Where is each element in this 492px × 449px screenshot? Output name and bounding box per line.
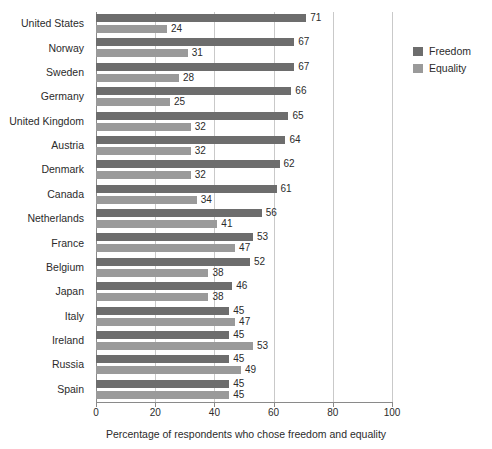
bar-value-label: 32 xyxy=(195,146,206,156)
bar-equality: 41 xyxy=(96,220,217,228)
category-label-spain: Spain xyxy=(0,384,84,395)
bar-freedom: 66 xyxy=(96,87,291,95)
chart-legend: FreedomEquality xyxy=(413,44,471,78)
bar-value-label: 53 xyxy=(257,341,268,351)
bar-equality: 38 xyxy=(96,293,208,301)
bar-value-label: 67 xyxy=(298,62,309,72)
category-axis-labels: United StatesNorwaySwedenGermanyUnited K… xyxy=(0,12,84,402)
bar-group: 6232 xyxy=(96,158,392,182)
bar-value-label: 25 xyxy=(174,97,185,107)
bar-group: 6532 xyxy=(96,110,392,134)
bar-value-label: 47 xyxy=(239,243,250,253)
bar-value-label: 46 xyxy=(236,281,247,291)
bar-equality: 24 xyxy=(96,25,167,33)
bar-value-label: 45 xyxy=(233,306,244,316)
category-label-germany: Germany xyxy=(0,91,84,102)
bar-freedom: 71 xyxy=(96,14,306,22)
bar-value-label: 32 xyxy=(195,122,206,132)
bar-value-label: 34 xyxy=(201,195,212,205)
bar-freedom: 67 xyxy=(96,63,294,71)
bar-value-label: 38 xyxy=(212,292,223,302)
bar-group: 6432 xyxy=(96,134,392,158)
category-label-united-states: United States xyxy=(0,18,84,29)
legend-swatch-icon xyxy=(413,47,423,56)
bar-value-label: 65 xyxy=(292,111,303,121)
bar-value-label: 61 xyxy=(281,184,292,194)
bar-freedom: 45 xyxy=(96,331,229,339)
bar-value-label: 53 xyxy=(257,232,268,242)
legend-item-equality[interactable]: Equality xyxy=(413,61,471,75)
bar-freedom: 56 xyxy=(96,209,262,217)
legend-item-freedom[interactable]: Freedom xyxy=(413,44,471,58)
legend-swatch-icon xyxy=(413,64,423,73)
bar-group: 4638 xyxy=(96,280,392,304)
x-axis: 020406080100 xyxy=(96,402,392,422)
bar-value-label: 64 xyxy=(289,135,300,145)
bar-equality: 45 xyxy=(96,391,229,399)
x-tick-label-80: 80 xyxy=(327,407,338,419)
bar-equality: 28 xyxy=(96,74,179,82)
bar-freedom: 45 xyxy=(96,355,229,363)
bar-equality: 38 xyxy=(96,269,208,277)
bar-equality: 47 xyxy=(96,318,235,326)
category-label-italy: Italy xyxy=(0,311,84,322)
bar-value-label: 49 xyxy=(245,365,256,375)
bar-equality: 32 xyxy=(96,123,191,131)
bar-value-label: 47 xyxy=(239,317,250,327)
x-axis-title: Percentage of respondents who chose free… xyxy=(0,428,492,440)
bar-freedom: 61 xyxy=(96,185,277,193)
bar-equality: 25 xyxy=(96,98,170,106)
bar-value-label: 52 xyxy=(254,257,265,267)
bar-group: 6728 xyxy=(96,61,392,85)
bar-value-label: 41 xyxy=(221,219,232,229)
x-tick-label-0: 0 xyxy=(93,407,99,419)
bar-equality: 32 xyxy=(96,171,191,179)
bar-equality: 47 xyxy=(96,244,235,252)
bar-chart: United StatesNorwaySwedenGermanyUnited K… xyxy=(0,0,492,449)
bar-equality: 31 xyxy=(96,49,188,57)
bar-freedom: 67 xyxy=(96,38,294,46)
bar-freedom: 45 xyxy=(96,307,229,315)
bar-value-label: 32 xyxy=(195,170,206,180)
category-label-france: France xyxy=(0,238,84,249)
x-tick-label-20: 20 xyxy=(150,407,161,419)
bar-group: 6625 xyxy=(96,85,392,109)
gridline-100 xyxy=(392,12,393,402)
bar-value-label: 71 xyxy=(310,13,321,23)
bar-freedom: 46 xyxy=(96,282,232,290)
bar-group: 5347 xyxy=(96,231,392,255)
category-label-denmark: Denmark xyxy=(0,164,84,175)
bar-equality: 34 xyxy=(96,196,197,204)
bar-freedom: 64 xyxy=(96,136,285,144)
category-label-japan: Japan xyxy=(0,286,84,297)
bar-value-label: 45 xyxy=(233,330,244,340)
category-label-belgium: Belgium xyxy=(0,262,84,273)
bar-freedom: 53 xyxy=(96,233,253,241)
category-label-ireland: Ireland xyxy=(0,335,84,346)
bar-value-label: 66 xyxy=(295,86,306,96)
category-label-norway: Norway xyxy=(0,43,84,54)
bar-rows: 7124673167286625653264326232613456415347… xyxy=(96,12,392,402)
category-label-united-kingdom: United Kingdom xyxy=(0,116,84,127)
bar-equality: 32 xyxy=(96,147,191,155)
bar-freedom: 65 xyxy=(96,112,288,120)
x-axis-line xyxy=(96,402,392,403)
x-tick-label-100: 100 xyxy=(384,407,401,419)
bar-value-label: 67 xyxy=(298,37,309,47)
bar-group: 4553 xyxy=(96,329,392,353)
bar-freedom: 52 xyxy=(96,258,250,266)
bar-value-label: 24 xyxy=(171,24,182,34)
bar-value-label: 45 xyxy=(233,379,244,389)
legend-label: Equality xyxy=(429,63,466,74)
bar-group: 7124 xyxy=(96,12,392,36)
bar-group: 4549 xyxy=(96,353,392,377)
x-tick-label-60: 60 xyxy=(268,407,279,419)
category-label-austria: Austria xyxy=(0,140,84,151)
bar-value-label: 45 xyxy=(233,354,244,364)
bar-value-label: 45 xyxy=(233,390,244,400)
bar-value-label: 62 xyxy=(284,159,295,169)
bar-value-label: 56 xyxy=(266,208,277,218)
bar-group: 4547 xyxy=(96,305,392,329)
bar-value-label: 31 xyxy=(192,48,203,58)
bar-group: 4545 xyxy=(96,378,392,402)
